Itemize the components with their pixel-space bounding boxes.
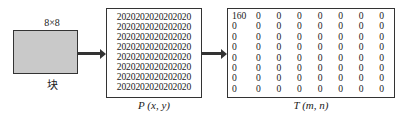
- p-matrix-row: 2020202020202020: [111, 82, 197, 92]
- t-matrix-row: 00000000: [230, 21, 392, 31]
- t-matrix-row: 00000000: [230, 73, 392, 83]
- t-matrix-cell: 0: [289, 84, 310, 94]
- t-matrix-row: 00000000: [230, 53, 392, 63]
- t-matrix-cell: 0: [248, 84, 269, 94]
- arrow-p-to-t: [202, 52, 223, 55]
- t-matrix: 1600000000000000000000000000000000000000…: [227, 8, 395, 98]
- t-matrix-row: 00000000: [230, 63, 392, 73]
- t-matrix-cell: 0: [351, 42, 372, 52]
- t-matrix-cell: 0: [230, 42, 248, 52]
- block-label: 块: [30, 76, 74, 92]
- t-matrix-cell: 0: [248, 42, 269, 52]
- t-matrix-label: T (m, n): [227, 99, 395, 111]
- t-matrix-cell: 0: [289, 42, 310, 52]
- t-matrix-cell: 0: [310, 84, 331, 94]
- p-matrix: 2020202020202020202020202020202020202020…: [106, 8, 202, 98]
- t-matrix-cell: 0: [269, 42, 290, 52]
- t-matrix-cell: 0: [310, 42, 331, 52]
- t-matrix-cell: 0: [371, 84, 392, 94]
- t-matrix-cell: 0: [371, 42, 392, 52]
- image-block: [13, 30, 78, 74]
- t-matrix-row: 00000000: [230, 84, 392, 94]
- t-matrix-row: 00000000: [230, 42, 392, 52]
- t-matrix-row: 1600000000: [230, 11, 392, 21]
- t-matrix-cell: 0: [330, 84, 351, 94]
- t-matrix-row: 00000000: [230, 32, 392, 42]
- t-matrix-cell: 0: [269, 84, 290, 94]
- p-matrix-label: P (x, y): [106, 99, 202, 111]
- t-matrix-cell: 0: [330, 42, 351, 52]
- t-matrix-cell: 0: [230, 84, 248, 94]
- t-matrix-cell: 0: [351, 84, 372, 94]
- block-size-label: 8×8: [30, 17, 74, 28]
- arrow-block-to-p: [78, 52, 102, 55]
